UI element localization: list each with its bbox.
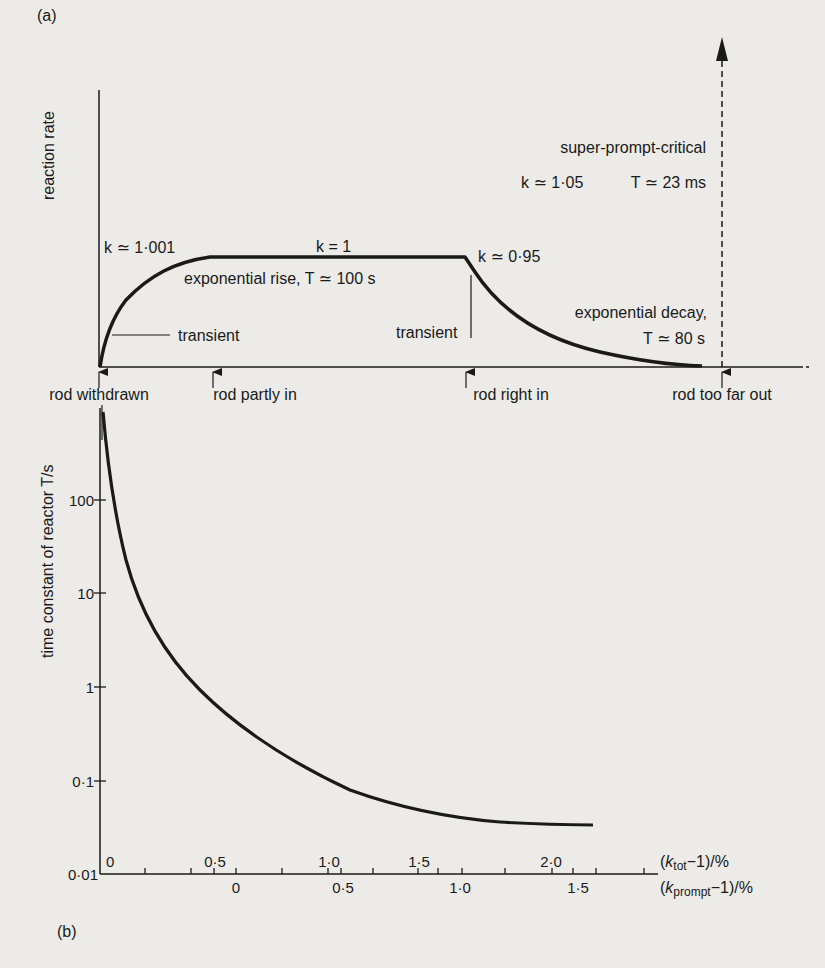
panel-a-ylabel: reaction rate: [40, 111, 57, 200]
time-constant-curve: [103, 412, 593, 825]
transient-right-label: transient: [396, 324, 458, 341]
x-axis-label-kprompt: (kprompt−1)/%: [660, 879, 753, 899]
k-plateau-annotation: k = 1: [316, 238, 351, 255]
transient-left-label: transient: [178, 327, 240, 344]
event-label-rod-too-far-out: rod too far out: [672, 386, 772, 403]
ytick-10: 10: [77, 585, 94, 602]
x-axis-label-ktot: (ktot−1)/%: [660, 853, 729, 873]
xtick-kprompt-1-5: 1·5: [567, 879, 589, 896]
xtick-ktot-0: 0: [106, 853, 114, 870]
super-prompt-critical-label: super-prompt-critical: [560, 139, 706, 156]
k-drop-annotation: k ≃ 0·95: [478, 248, 540, 265]
xtick-ktot-1-5: 1·5: [408, 853, 430, 870]
exponential-decay-annotation: exponential decay,: [575, 304, 707, 321]
event-label-rod-partly-in: rod partly in: [213, 386, 297, 403]
reactor-kinetics-figure: (a) reaction rate k ≃ 1·001 k = 1 expone…: [0, 0, 825, 968]
up-arrow-icon: [716, 37, 728, 61]
panel-b: time constant of reactor T/s 100 10 1 0·…: [39, 405, 753, 940]
xtick-kprompt-0: 0: [232, 879, 240, 896]
exponential-rise-annotation: exponential rise, T ≃ 100 s: [184, 270, 376, 287]
ytick-0-01: 0·01: [68, 866, 98, 883]
ytick-100: 100: [69, 492, 94, 509]
xtick-kprompt-0-5: 0·5: [332, 879, 354, 896]
panel-a-label: (a): [37, 7, 57, 24]
decay-time-constant-annotation: T ≃ 80 s: [643, 330, 705, 347]
panel-b-ylabel: time constant of reactor T/s: [39, 464, 56, 658]
xtick-ktot-1-0: 1·0: [318, 853, 340, 870]
xtick-ktot-0-5: 0·5: [204, 853, 226, 870]
super-prompt-critical-k: k ≃ 1·05: [521, 174, 583, 191]
super-prompt-critical-T: T ≃ 23 ms: [631, 174, 706, 191]
panel-b-label: (b): [57, 923, 77, 940]
ytick-1: 1: [86, 679, 94, 696]
event-label-rod-right-in: rod right in: [473, 386, 549, 403]
panel-a: (a) reaction rate k ≃ 1·001 k = 1 expone…: [37, 7, 810, 403]
xtick-kprompt-1-0: 1·0: [449, 879, 471, 896]
ytick-0-1: 0·1: [72, 773, 94, 790]
k-start-annotation: k ≃ 1·001: [104, 239, 175, 256]
event-label-rod-withdrawn: rod withdrawn: [49, 386, 149, 403]
xtick-ktot-2-0: 2·0: [540, 853, 562, 870]
